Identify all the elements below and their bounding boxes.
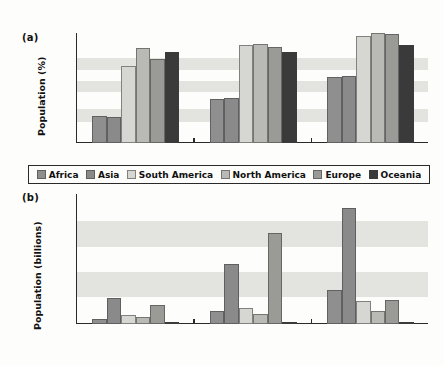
bar-oceania-1975 [165, 52, 179, 143]
y-axis-line [76, 33, 77, 143]
bar-south-america-1975 [121, 66, 135, 143]
bar-europe-2025 [385, 300, 399, 324]
legend-swatch-icon [37, 170, 46, 179]
bar-south-america-2025 [356, 36, 370, 143]
bar-asia-1975 [107, 298, 121, 324]
bar-south-america-2025 [356, 301, 370, 324]
legend: AfricaAsiaSouth AmericaNorth AmericaEuro… [28, 165, 430, 184]
bar-europe-1975 [150, 305, 164, 325]
background-band [76, 221, 428, 247]
bar-asia-2000 [224, 264, 238, 324]
bar-north-america-2025 [371, 311, 385, 324]
bar-asia-2000 [224, 98, 238, 143]
bar-africa-2025 [327, 77, 341, 143]
legend-label: Europe [325, 170, 361, 180]
legend-label: North America [233, 170, 306, 180]
bar-oceania-2000 [282, 322, 296, 324]
bar-south-america-1975 [121, 315, 135, 324]
background-band [76, 272, 428, 297]
bar-north-america-2000 [253, 44, 267, 143]
legend-swatch-icon [313, 170, 322, 179]
legend-label: Asia [98, 170, 119, 180]
bar-europe-2000 [268, 47, 282, 143]
bar-africa-2025 [327, 290, 341, 324]
bar-africa-1975 [92, 116, 106, 144]
bar-north-america-2025 [371, 33, 385, 143]
legend-item-oceania[interactable]: Oceania [369, 170, 422, 180]
x-axis-group-tick [311, 319, 312, 324]
bar-south-america-2000 [239, 308, 253, 324]
bar-africa-2000 [210, 99, 224, 143]
bar-north-america-1975 [136, 317, 150, 324]
legend-swatch-icon [369, 170, 378, 179]
legend-item-south-america[interactable]: South America [127, 170, 213, 180]
bar-oceania-2025 [399, 45, 413, 143]
y-axis-line [76, 194, 77, 324]
figure-root: (a) Population (%) 020406080197520002025… [0, 0, 444, 366]
panel-b-tag: (b) [22, 192, 39, 203]
bar-europe-2000 [268, 233, 282, 324]
bar-north-america-1975 [136, 48, 150, 143]
panel-a-y-axis-label: Population (%) [36, 57, 47, 136]
bar-africa-1975 [92, 319, 106, 324]
bar-asia-2025 [342, 76, 356, 143]
bar-oceania-1975 [165, 322, 179, 324]
panel-b-plot-area: 00.51.01.52.02.53.0197520002025Year [76, 194, 428, 324]
bar-asia-1975 [107, 117, 121, 143]
legend-item-africa[interactable]: Africa [37, 170, 79, 180]
legend-item-europe[interactable]: Europe [313, 170, 361, 180]
legend-swatch-icon [127, 170, 136, 179]
chart-panel-a: (a) Population (%) 020406080197520002025… [0, 0, 444, 158]
bar-south-america-2000 [239, 45, 253, 143]
panel-a-plot-area: 020406080197520002025Year [76, 33, 428, 143]
legend-swatch-icon [86, 170, 95, 179]
bar-europe-1975 [150, 59, 164, 143]
panel-a-tag: (a) [22, 32, 39, 43]
x-axis-group-tick [193, 138, 194, 143]
bar-oceania-2025 [399, 322, 413, 324]
bar-asia-2025 [342, 208, 356, 324]
legend-label: South America [139, 170, 213, 180]
chart-panel-b: (b) Population (billions) 00.51.01.52.02… [0, 186, 444, 366]
legend-swatch-icon [221, 170, 230, 179]
x-axis-group-tick [311, 138, 312, 143]
legend-item-asia[interactable]: Asia [86, 170, 119, 180]
legend-label: Africa [49, 170, 79, 180]
bar-north-america-2000 [253, 314, 267, 324]
legend-item-north-america[interactable]: North America [221, 170, 306, 180]
panel-b-y-axis-label: Population (billions) [32, 221, 43, 330]
bar-europe-2025 [385, 34, 399, 143]
bar-africa-2000 [210, 311, 224, 324]
legend-label: Oceania [381, 170, 422, 180]
x-axis-group-tick [193, 319, 194, 324]
bar-oceania-2000 [282, 52, 296, 143]
